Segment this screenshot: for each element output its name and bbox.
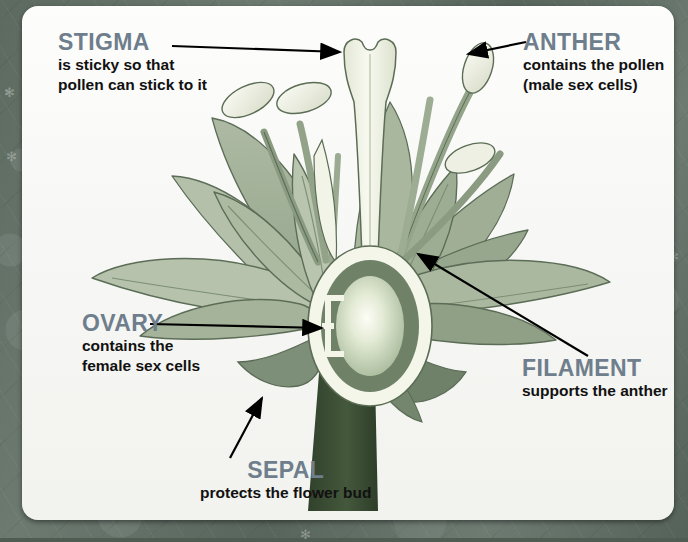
anther-part bbox=[441, 39, 499, 179]
label-stigma-desc-line1: is sticky so that bbox=[58, 56, 207, 74]
decorative-star-icon: ✻ bbox=[300, 528, 311, 541]
diagram-card: STIGMA is sticky so that pollen can stic… bbox=[22, 6, 674, 520]
label-anther: ANTHER contains the pollen (male sex cel… bbox=[523, 30, 664, 95]
label-ovary: OVARY contains the female sex cells bbox=[82, 311, 200, 376]
label-anther-desc-line2: (male sex cells) bbox=[523, 76, 664, 94]
label-stigma: STIGMA is sticky so that pollen can stic… bbox=[58, 30, 207, 95]
label-filament-title: FILAMENT bbox=[522, 356, 668, 380]
label-ovary-title: OVARY bbox=[82, 311, 200, 335]
label-anther-desc-line1: contains the pollen bbox=[523, 56, 664, 74]
arrow-sepal bbox=[230, 398, 262, 458]
ovary-part bbox=[308, 246, 432, 406]
label-sepal-title: SEPAL bbox=[200, 458, 371, 482]
label-stigma-desc-line2: pollen can stick to it bbox=[58, 76, 207, 94]
label-filament-desc-line1: supports the anther bbox=[522, 382, 668, 400]
label-anther-title: ANTHER bbox=[523, 30, 664, 54]
label-ovary-desc-line2: female sex cells bbox=[82, 357, 200, 375]
decorative-star-icon: ✻ bbox=[6, 150, 17, 163]
decorative-star-icon: ✻ bbox=[4, 86, 15, 99]
label-stigma-title: STIGMA bbox=[58, 30, 207, 54]
label-sepal: SEPAL protects the flower bud bbox=[200, 458, 371, 502]
label-sepal-desc-line1: protects the flower bud bbox=[200, 484, 371, 502]
label-ovary-desc-line1: contains the bbox=[82, 337, 200, 355]
label-filament: FILAMENT supports the anther bbox=[522, 356, 668, 400]
